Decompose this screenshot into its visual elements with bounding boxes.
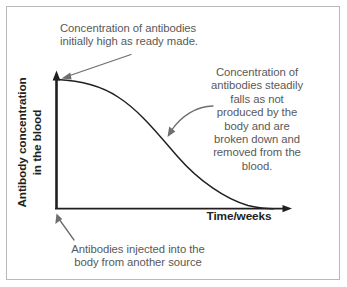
annotation-bottom-text: Antibodies injected into the body from a…	[40, 243, 236, 270]
annotation-right-text: Concentration of antibodies steadily fal…	[196, 66, 318, 173]
annotation-top-text: Concentration of antibodies initially hi…	[60, 22, 232, 49]
annotation-arrow-top	[62, 55, 132, 80]
y-axis-label: Antibody concentration in the blood	[15, 67, 44, 219]
annotation-arrow-right-head-icon	[168, 127, 176, 137]
annotation-arrow-top-line	[67, 55, 131, 77]
annotation-arrow-bottom-line	[59, 219, 74, 240]
annotation-arrow-top-head-icon	[62, 73, 72, 80]
annotation-arrow-bottom	[55, 214, 74, 241]
figure-root: Concentration of antibodies initially hi…	[0, 0, 347, 287]
x-axis-label: Time/weeks	[186, 210, 292, 223]
y-axis	[53, 71, 61, 210]
